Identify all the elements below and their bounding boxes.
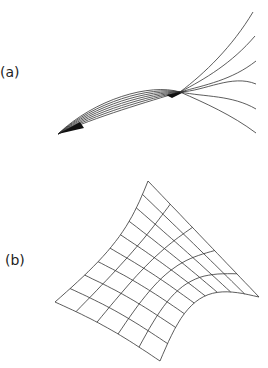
figure-canvas [0, 0, 268, 368]
grid-line-row [129, 221, 217, 292]
grid-line-row [148, 181, 259, 297]
fan-curve [180, 12, 253, 92]
grid-line-col [55, 181, 148, 302]
grid-line-row [55, 302, 160, 361]
fan-curve [180, 36, 255, 92]
panel-a-curves [58, 12, 256, 134]
grid-line-row [143, 194, 245, 294]
grid-line-col [160, 292, 259, 361]
fan-curve [180, 61, 256, 92]
panel-b-grid [55, 181, 259, 361]
grid-line-col [76, 204, 170, 312]
grid-line-row [121, 235, 206, 296]
fan-curve [180, 92, 256, 109]
fan-curve [180, 92, 256, 133]
